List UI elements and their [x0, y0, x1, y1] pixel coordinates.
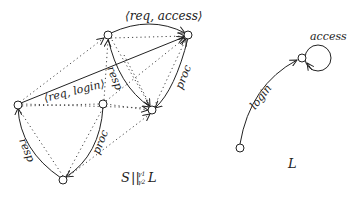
- node-top-left: [104, 31, 112, 39]
- node-bottom: [59, 176, 67, 184]
- right-graph: login access L: [236, 30, 347, 171]
- label-proc-top: proc: [173, 63, 194, 91]
- diagram-canvas: ⟨req, access⟩ ⟨req, login⟩ resp proc res…: [0, 0, 361, 198]
- svg-text:γ2: γ2: [138, 178, 146, 186]
- svg-text:L: L: [147, 170, 157, 185]
- right-caption: L: [287, 156, 297, 171]
- node-left: [14, 101, 22, 109]
- self-loop-access: [305, 45, 331, 71]
- label-access: access: [310, 30, 347, 43]
- label-resp-bottom: resp: [16, 136, 37, 164]
- label-proc-bottom: proc: [90, 128, 111, 156]
- label-resp-top: resp: [104, 64, 125, 92]
- node-middle: [99, 100, 107, 108]
- label-login: login: [247, 82, 274, 112]
- svg-text:S: S: [121, 170, 130, 185]
- node-start: [236, 144, 244, 152]
- node-logged-in: [298, 54, 306, 62]
- label-req-access: ⟨req, access⟩: [125, 9, 203, 23]
- node-top-right: [184, 31, 192, 39]
- node-right-lower: [148, 106, 156, 114]
- left-caption: S || γ1 γ2 L: [121, 170, 157, 186]
- svg-text:γ1: γ1: [138, 170, 145, 178]
